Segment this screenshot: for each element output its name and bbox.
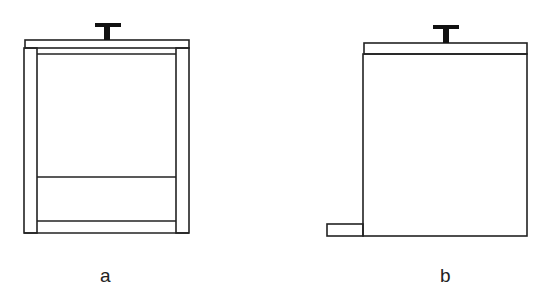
figure-b-label: b [440, 265, 451, 287]
diagram-canvas [0, 0, 546, 303]
figure-a-right-wall [176, 48, 189, 233]
figure-a-left-wall [24, 48, 37, 233]
figure-b-outlet-tab [327, 224, 363, 236]
figure-a-label: a [100, 265, 111, 287]
figure-a [24, 40, 189, 233]
figure-b-lid [364, 43, 527, 54]
figure-b-body [363, 54, 527, 236]
figure-b-handle-icon [433, 25, 459, 43]
figure-b [327, 43, 527, 236]
figure-a-lid [25, 40, 189, 48]
figure-a-handle-icon [95, 23, 121, 40]
